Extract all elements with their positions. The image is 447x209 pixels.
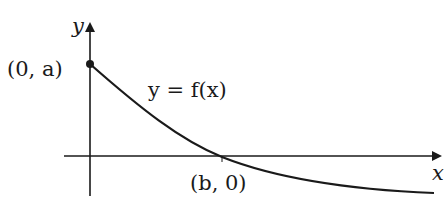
- point-label-b-0: (b, 0): [190, 171, 247, 195]
- x-axis-label: x: [432, 161, 444, 185]
- y-intercept-dot: [86, 60, 94, 68]
- point-label-0-a: (0, a): [7, 57, 63, 81]
- function-graph: y x (0, a) y = f(x) (b, 0): [0, 0, 447, 209]
- curve-f-x: [90, 64, 434, 193]
- curve-label: y = f(x): [147, 78, 227, 102]
- y-axis-label: y: [71, 14, 85, 38]
